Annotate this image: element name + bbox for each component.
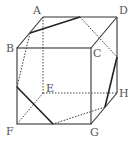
label-E: E	[46, 82, 54, 95]
edge-EF	[17, 93, 43, 124]
label-H: H	[119, 87, 129, 100]
label-A: A	[32, 4, 42, 17]
label-F: F	[6, 125, 14, 138]
section-edge-P4-P5	[53, 107, 105, 124]
label-B: B	[6, 42, 14, 55]
label-C: C	[93, 47, 101, 60]
label-G: G	[90, 126, 99, 139]
cube-svg: A D B C E H F G	[0, 0, 130, 143]
section-edge-P1-P2	[30, 17, 80, 33]
cube-diagram: A D B C E H F G	[0, 0, 130, 143]
label-D: D	[119, 4, 128, 17]
edge-HG	[91, 93, 117, 124]
